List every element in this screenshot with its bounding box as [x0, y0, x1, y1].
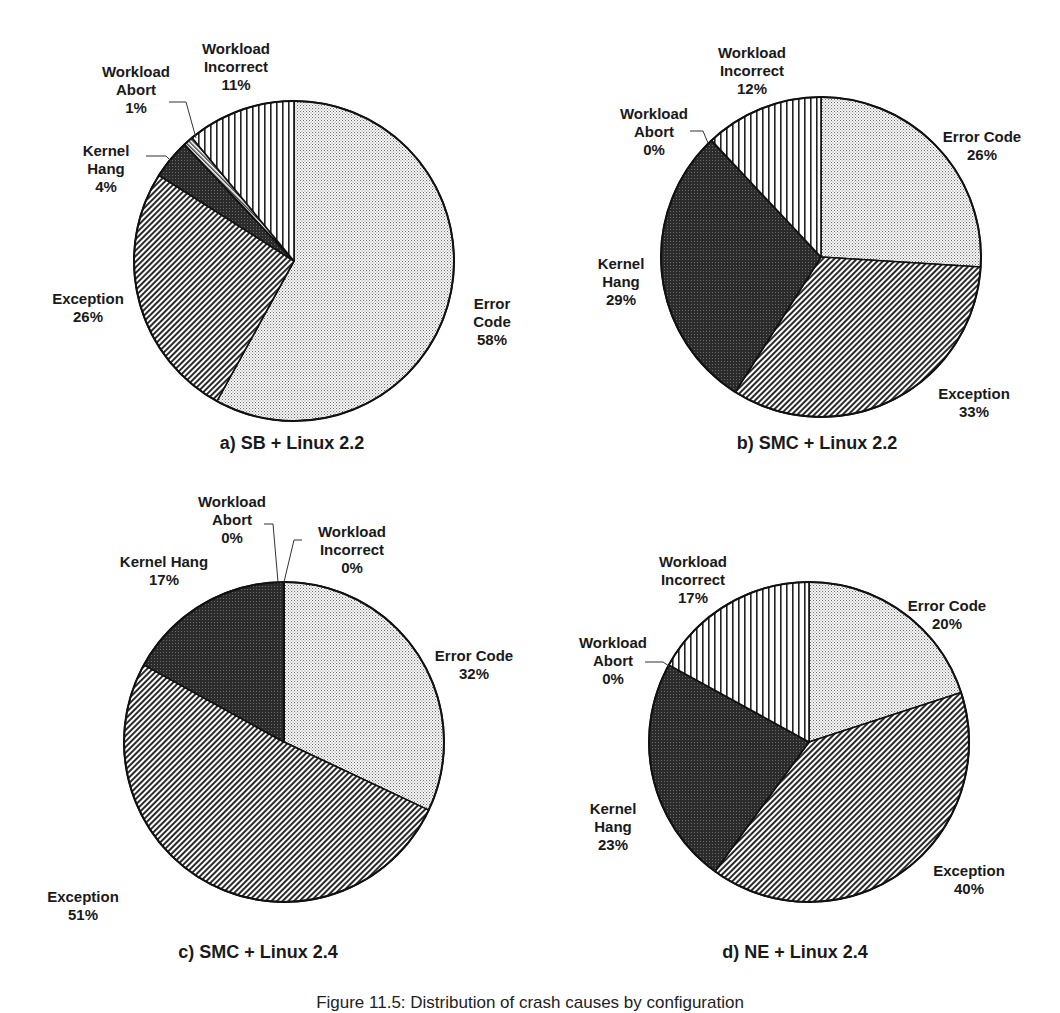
slice-label-kernel-hang: Kernel Hang 29%: [598, 255, 645, 309]
subtitle-d: d) NE + Linux 2.4: [722, 942, 868, 963]
slice-label-exception: Exception 33%: [938, 385, 1010, 421]
slice-label-error-code: Error Code 20%: [908, 597, 986, 633]
slice-label-error-code: Error Code 26%: [943, 128, 1021, 164]
slice-label-kernel-hang: Kernel Hang 17%: [120, 553, 208, 589]
pie-chart-a: [134, 101, 454, 421]
subtitle-b: b) SMC + Linux 2.2: [737, 433, 898, 454]
slice-label-workload-abort: Workload Abort 0%: [620, 105, 688, 159]
slice-label-kernel-hang: Kernel Hang 23%: [590, 800, 637, 854]
slice-error-code: [821, 97, 981, 267]
leader-line-workload-incorrect: [284, 540, 302, 582]
leader-line-workload-abort: [264, 524, 278, 582]
slice-label-error-code: Error Code 58%: [473, 295, 511, 349]
slice-label-kernel-hang: Kernel Hang 4%: [83, 142, 130, 196]
figure-caption: Figure 11.5: Distribution of crash cause…: [316, 993, 744, 1013]
slice-label-workload-abort: Workload Abort 0%: [579, 634, 647, 688]
subtitle-a: a) SB + Linux 2.2: [220, 433, 365, 454]
slice-label-workload-abort: Workload Abort 1%: [102, 63, 170, 117]
leader-line-workload-abort: [169, 102, 196, 138]
subtitle-c: c) SMC + Linux 2.4: [178, 942, 338, 963]
slice-label-workload-incorrect: Workload Incorrect 17%: [659, 553, 727, 607]
slice-label-workload-incorrect: Workload Incorrect 0%: [318, 523, 386, 577]
slice-label-workload-incorrect: Workload Incorrect 12%: [718, 44, 786, 98]
slice-label-workload-incorrect: Workload Incorrect 11%: [202, 40, 270, 94]
slice-label-exception: Exception 40%: [933, 862, 1005, 898]
slice-label-error-code: Error Code 32%: [435, 647, 513, 683]
slice-label-workload-abort: Workload Abort 0%: [198, 493, 266, 547]
leader-line-workload-abort: [690, 131, 708, 143]
slice-label-exception: Exception 26%: [52, 290, 124, 326]
slice-label-exception: Exception 51%: [47, 888, 119, 924]
leader-line-workload-abort: [645, 662, 669, 666]
pie-chart-b: [661, 97, 981, 417]
